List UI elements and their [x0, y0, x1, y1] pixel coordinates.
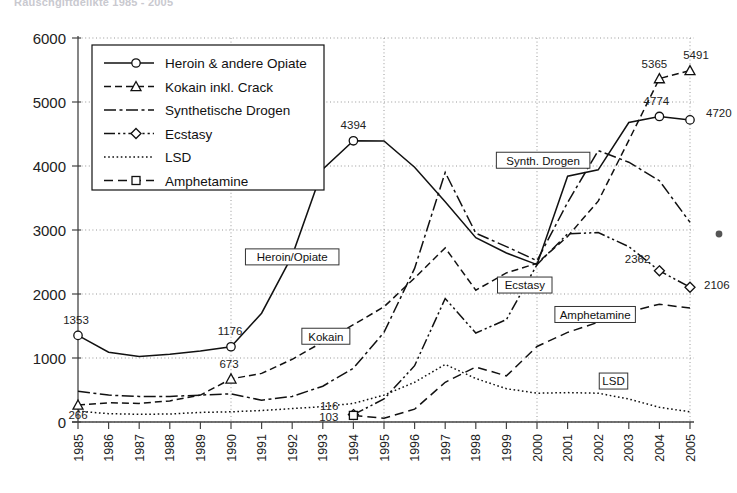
y-axis-label: 5000 [33, 94, 66, 111]
data-point-label: 1353 [63, 314, 89, 326]
x-axis-label: 1999 [500, 434, 514, 462]
y-axis-label: 1000 [33, 350, 66, 367]
data-point-label: 116 [320, 400, 338, 412]
marker-circle [655, 112, 663, 120]
annotation-label: LSD [602, 375, 624, 387]
x-axis-label: 1985 [72, 434, 86, 462]
data-point-label: 4774 [644, 95, 670, 107]
legend-entry-label: Synthetische Drogen [165, 103, 290, 118]
x-axis-label: 1986 [102, 434, 116, 462]
data-point-label: 2362 [625, 253, 651, 265]
x-axis-label: 1996 [408, 434, 422, 462]
marker-triangle [226, 374, 236, 383]
x-axis-label: 1995 [378, 434, 392, 462]
x-axis-label: 2005 [684, 434, 698, 462]
y-axis-label: 3000 [33, 222, 66, 239]
marker-circle [686, 116, 694, 124]
x-axis-label: 1998 [469, 434, 483, 462]
x-axis-label: 1987 [133, 434, 147, 462]
x-axis-label: 2004 [653, 434, 667, 462]
data-point-label: 4394 [341, 119, 367, 131]
marker-circle [132, 59, 140, 67]
stray-dot-artifact [716, 231, 723, 238]
x-axis-label: 1989 [194, 434, 208, 462]
annotation-label: Heroin/Opiate [257, 251, 328, 263]
chart-legend: Heroin & andere OpiateKokain inkl. Crack… [92, 45, 324, 190]
marker-diamond [654, 266, 664, 276]
x-axis-label: 1993 [316, 434, 330, 462]
series-line [78, 364, 690, 414]
data-point-label: 4720 [706, 107, 732, 119]
data-point-label: 673 [219, 358, 238, 370]
marker-circle [227, 343, 235, 351]
x-axis-label: 1990 [225, 434, 239, 462]
x-axis-label: 1988 [163, 434, 177, 462]
marker-circle [74, 331, 82, 339]
legend-entry-label: Kokain inkl. Crack [165, 80, 273, 95]
data-point-label: 2106 [704, 279, 730, 291]
marker-diamond [685, 282, 695, 292]
x-axis-label: 2000 [531, 434, 545, 462]
data-point-label: 5491 [683, 49, 709, 61]
x-axis-label: 2001 [561, 434, 575, 462]
y-axis-label: 0 [58, 414, 66, 431]
y-axis-label: 4000 [33, 158, 66, 175]
y-axis-labels: 6000500040003000200010000 [33, 30, 66, 431]
y-axis-label: 6000 [33, 30, 66, 47]
y-axis-label: 2000 [33, 286, 66, 303]
x-axis-label: 1992 [286, 434, 300, 462]
legend-entry-label: Ecstasy [165, 127, 213, 142]
x-axis-labels: 1985198619871988198919901991199219931994… [72, 434, 698, 462]
x-axis-label: 1997 [439, 434, 453, 462]
annotation-label: Kokain [308, 331, 343, 343]
marker-triangle [685, 66, 695, 75]
data-point-label: 266 [68, 409, 87, 421]
annotation-label: Amphetamine [560, 309, 631, 321]
legend-entry-label: Heroin & andere Opiate [165, 56, 307, 71]
x-axis-label: 2003 [622, 434, 636, 462]
x-axis-label: 1991 [255, 434, 269, 462]
x-axis-label: 2002 [592, 434, 606, 462]
line-chart-svg: 1353117643944774472026667353655491116236… [0, 0, 737, 493]
legend-entry-label: LSD [165, 150, 192, 165]
legend-entry-label: Amphetamine [165, 174, 248, 189]
x-axis-label: 1994 [347, 434, 361, 462]
data-point-label: 103 [319, 411, 338, 423]
data-point-label: 5365 [642, 58, 668, 70]
annotation-label: Ecstasy [505, 279, 546, 291]
marker-square [132, 177, 140, 185]
chart-container: Rauschgiftdelikte 1985 - 2005 1353117643… [0, 0, 737, 493]
data-point-label: 1176 [218, 325, 243, 337]
series-line [353, 304, 690, 418]
annotation-label: Synth. Drogen [506, 155, 580, 167]
marker-circle [349, 137, 357, 145]
marker-square [349, 411, 357, 419]
